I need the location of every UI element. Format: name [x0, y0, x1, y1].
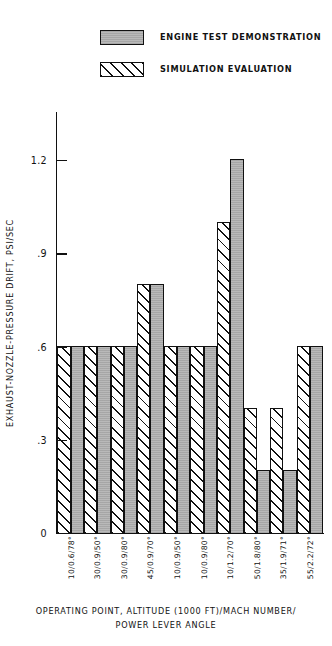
- bar-engine-test-demonstration: [177, 346, 190, 533]
- x-axis-tick-label-cell: 30/0.9/50°: [84, 536, 111, 598]
- x-axis-tick-label-cell: 10/1.2/70°: [217, 536, 244, 598]
- y-axis-tick: [56, 347, 67, 348]
- chart-legend: ENGINE TEST DEMONSTRATION SIMULATION EVA…: [100, 26, 326, 90]
- bar-group: [190, 113, 217, 533]
- x-axis-tick-label-cell: 10/0.9/80°: [190, 536, 217, 598]
- x-axis-tick-label: 10/1.2/70°: [226, 536, 235, 579]
- bar-simulation-evaluation: [244, 408, 257, 532]
- x-axis-tick-label-cell: 10/0.6/78°: [57, 536, 84, 598]
- x-axis-tick-label: 30/0.9/50°: [93, 536, 102, 579]
- caption-line-2: POWER LEVER ANGLE: [0, 618, 332, 632]
- y-axis-tick-labels: 0.3.6.91.2: [0, 112, 52, 534]
- bar-simulation-evaluation: [217, 222, 230, 533]
- bar-simulation-evaluation: [297, 346, 310, 533]
- bar-engine-test-demonstration: [71, 346, 84, 533]
- x-axis-tick-label-cell: 35/1.9/71°: [270, 536, 297, 598]
- bar-group: [244, 113, 271, 533]
- x-axis-tick-label: 50/1.8/80°: [252, 536, 261, 579]
- bar-engine-test-demonstration: [310, 346, 323, 533]
- x-axis-tick-label: 55/2.2/72°: [306, 536, 315, 579]
- x-axis-tick-label-cell: 10/0.9/50°: [164, 536, 191, 598]
- bar-group: [137, 113, 164, 533]
- bar-engine-test-demonstration: [124, 346, 137, 533]
- bar-group: [57, 113, 84, 533]
- bar-simulation-evaluation: [137, 284, 150, 533]
- x-axis-tick-label-cell: 55/2.2/72°: [297, 536, 324, 598]
- x-axis-tick-label: 45/0.9/70°: [146, 536, 155, 579]
- bar-simulation-evaluation: [84, 346, 97, 533]
- bar-simulation-evaluation: [111, 346, 124, 533]
- y-axis-tick: [56, 160, 67, 161]
- x-axis-tick-label-cell: 50/1.8/80°: [244, 536, 271, 598]
- x-axis-tick-label: 10/0.9/80°: [199, 536, 208, 579]
- x-axis-line: [56, 533, 324, 534]
- bar-engine-test-demonstration: [230, 159, 243, 532]
- bar-chart-figure: ENGINE TEST DEMONSTRATION SIMULATION EVA…: [0, 0, 332, 646]
- y-axis-tick-label: 1.2: [31, 155, 47, 166]
- bar-engine-test-demonstration: [257, 470, 270, 532]
- x-axis-tick-label-cell: 45/0.9/70°: [137, 536, 164, 598]
- x-axis-tick-labels: 10/0.6/78°30/0.9/50°30/0.9/80°45/0.9/70°…: [57, 536, 323, 598]
- y-axis-tick: [56, 440, 67, 441]
- solid-gray-swatch-icon: [100, 30, 144, 45]
- bar-engine-test-demonstration: [283, 470, 296, 532]
- bar-group: [297, 113, 324, 533]
- legend-item-engine-test: ENGINE TEST DEMONSTRATION: [100, 26, 326, 48]
- x-axis-tick-label: 30/0.9/80°: [119, 536, 128, 579]
- y-axis-tick-label: 0: [41, 528, 47, 539]
- x-axis-tick-label-cell: 30/0.9/80°: [111, 536, 138, 598]
- bar-simulation-evaluation: [190, 346, 203, 533]
- x-axis-tick-label: 35/1.9/71°: [279, 536, 288, 579]
- caption-line-1: OPERATING POINT, ALTITUDE (1000 FT)/MACH…: [0, 604, 332, 618]
- x-axis-tick-label: 10/0.9/50°: [173, 536, 182, 579]
- bar-group: [164, 113, 191, 533]
- bar-group: [84, 113, 111, 533]
- bar-group: [270, 113, 297, 533]
- y-axis-tick-label: .9: [37, 248, 47, 259]
- y-axis-tick-label: .3: [37, 435, 47, 446]
- x-axis-tick-label: 10/0.6/78°: [66, 536, 75, 579]
- y-axis-tick-label: .6: [37, 341, 47, 352]
- bar-simulation-evaluation: [270, 408, 283, 532]
- bar-engine-test-demonstration: [204, 346, 217, 533]
- bar-group: [217, 113, 244, 533]
- legend-item-simulation: SIMULATION EVALUATION: [100, 58, 326, 80]
- legend-label-engine-test: ENGINE TEST DEMONSTRATION: [160, 32, 321, 42]
- bar-engine-test-demonstration: [97, 346, 110, 533]
- hatched-swatch-icon: [100, 62, 144, 77]
- bar-groups-container: [57, 113, 323, 533]
- bar-simulation-evaluation: [164, 346, 177, 533]
- bar-engine-test-demonstration: [150, 284, 163, 533]
- legend-label-simulation: SIMULATION EVALUATION: [160, 64, 292, 74]
- bar-group: [111, 113, 138, 533]
- plot-area: [56, 112, 324, 534]
- x-axis-caption: OPERATING POINT, ALTITUDE (1000 FT)/MACH…: [0, 604, 332, 632]
- y-axis-tick: [56, 253, 67, 254]
